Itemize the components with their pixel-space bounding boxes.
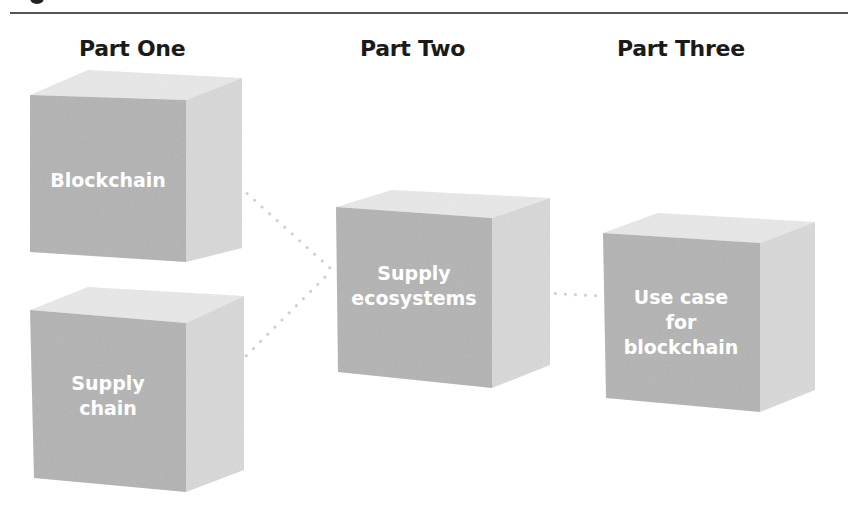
diagram-canvas	[0, 0, 855, 514]
cube-side-face	[186, 296, 244, 492]
connector-supplychain-to-ecosystems	[232, 272, 330, 370]
cube-side-face	[492, 198, 550, 388]
cube-side-face	[186, 78, 242, 262]
cube-label-supply-chain: Supplychain	[34, 368, 182, 424]
cube-label-supply-ecosystems: Supplyecosystems	[340, 258, 488, 314]
cube-side-face	[760, 222, 815, 412]
connector-blockchain-to-ecosystems	[232, 180, 330, 268]
cube-label-use-case: Use caseforblockchain	[607, 282, 755, 362]
cube-label-blockchain: Blockchain	[34, 160, 182, 200]
